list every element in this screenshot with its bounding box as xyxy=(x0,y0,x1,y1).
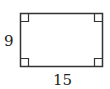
right-angle-marker-top-left xyxy=(21,14,29,22)
right-angle-markers xyxy=(21,14,103,67)
width-label: 15 xyxy=(53,71,72,89)
height-label: 9 xyxy=(4,32,14,50)
right-angle-marker-bottom-left xyxy=(21,59,29,67)
right-angle-marker-top-right xyxy=(95,14,103,22)
rectangle-diagram: 9 15 xyxy=(0,0,110,89)
rectangle xyxy=(21,14,103,67)
right-angle-marker-bottom-right xyxy=(95,59,103,67)
